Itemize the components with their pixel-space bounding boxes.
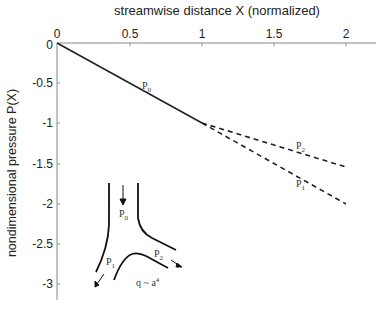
x-tick-4: 2 [343,27,350,41]
label-p0: P0 [142,80,151,94]
inset-label-p2: P2 [154,248,163,262]
label-p1: P1 [296,178,305,192]
inset-label-flow-law: q ~ a4 [136,276,159,288]
x-tick-3: 1.5 [266,27,283,41]
series-p0 [57,43,202,123]
series-p2 [202,123,346,167]
y-tick-1: -0.5 [32,76,53,90]
y-tick-4: -2 [42,197,53,211]
series-p1 [202,123,346,204]
label-p2: P2 [296,140,305,154]
y-tick-2: -1 [42,116,53,130]
inset-label-p0: P0 [119,208,128,222]
x-tick-2: 1 [199,27,206,41]
x-tick-0: 0 [54,27,61,41]
inset-label-p1: P1 [106,256,115,270]
y-tick-6: -3 [42,277,53,291]
y-tick-3: -1.5 [32,157,53,171]
y-tick-5: -2.5 [32,237,53,251]
x-tick-1: 0.5 [122,27,139,41]
y-tick-0: 0 [46,38,53,52]
plot-area [0,0,390,315]
